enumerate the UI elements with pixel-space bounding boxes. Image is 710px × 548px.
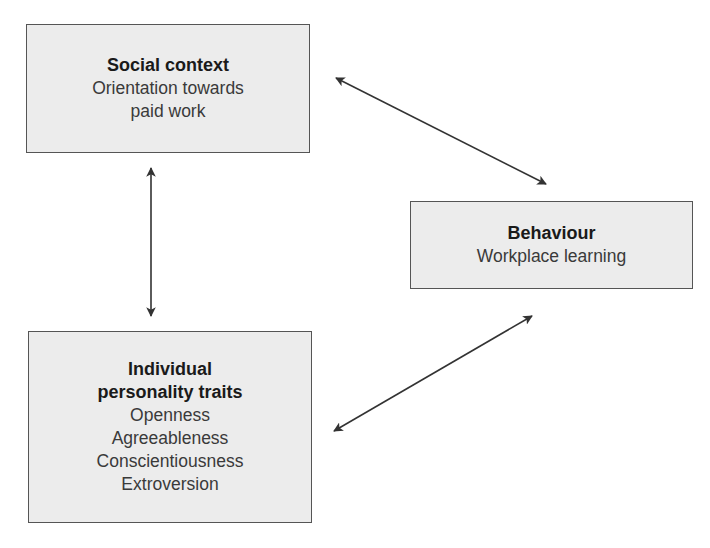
- trait-item: Conscientiousness: [97, 450, 244, 473]
- behaviour-title: Behaviour: [507, 222, 595, 245]
- behaviour-line: Workplace learning: [477, 245, 626, 268]
- individual-traits-box: Individual personality traits Openness A…: [28, 331, 312, 523]
- individual-traits-title: personality traits: [97, 381, 242, 404]
- social-context-line: Orientation towards: [92, 77, 244, 100]
- social-context-line: paid work: [131, 100, 206, 123]
- trait-item: Openness: [130, 404, 210, 427]
- arrow-social-behaviour: [336, 78, 546, 184]
- social-context-title: Social context: [107, 54, 229, 77]
- social-context-box: Social context Orientation towards paid …: [26, 24, 310, 153]
- individual-traits-title: Individual: [128, 358, 212, 381]
- trait-item: Extroversion: [121, 473, 218, 496]
- behaviour-box: Behaviour Workplace learning: [410, 201, 693, 289]
- arrow-individual-behaviour: [334, 316, 532, 431]
- trait-item: Agreeableness: [112, 427, 229, 450]
